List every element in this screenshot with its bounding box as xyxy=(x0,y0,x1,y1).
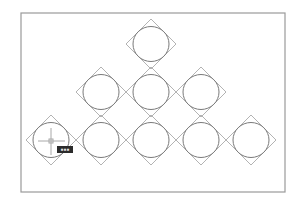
circle-shape[interactable] xyxy=(133,27,169,62)
circle-shape[interactable] xyxy=(83,75,119,110)
circle-shape[interactable] xyxy=(183,123,219,158)
circle-shape[interactable] xyxy=(183,75,219,110)
circle-shape[interactable] xyxy=(83,123,119,158)
circle-shape[interactable] xyxy=(133,75,169,110)
drawing-frame xyxy=(21,13,285,192)
circle-shape[interactable] xyxy=(233,123,269,158)
circle-shape[interactable] xyxy=(133,123,169,158)
drawing-canvas[interactable] xyxy=(0,0,299,204)
cursor-tooltip: ▪▪▪ xyxy=(57,146,73,153)
shape-group xyxy=(26,19,276,165)
